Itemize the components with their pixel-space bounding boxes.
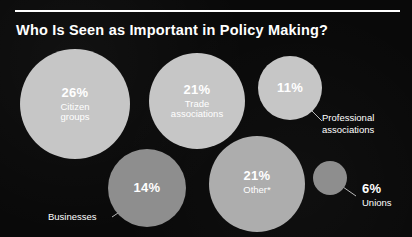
callout-unions-value: 6%	[362, 181, 392, 197]
bubble-businesses[interactable]	[108, 149, 186, 227]
callout-professional-associations-line2: associations	[322, 124, 374, 136]
callout-professional-associations-line1: Professional	[322, 112, 374, 124]
callout-unions: 6% Unions	[362, 181, 392, 209]
bubble-unions[interactable]	[313, 161, 347, 195]
bubble-citizen-groups[interactable]	[20, 49, 130, 159]
callout-professional-associations: Professional associations	[322, 112, 374, 136]
leader-line-professional-associations	[311, 110, 322, 121]
leader-line-unions	[343, 187, 356, 196]
bubble-professional-associations[interactable]	[258, 56, 322, 120]
callout-unions-label: Unions	[362, 197, 392, 209]
bubble-other[interactable]	[209, 136, 305, 232]
callout-businesses: Businesses	[48, 211, 97, 223]
bubble-trade-associations[interactable]	[149, 53, 245, 149]
callout-businesses-label: Businesses	[48, 211, 97, 223]
bubble-chart: Who Is Seen as Important in Policy Makin…	[0, 0, 412, 237]
